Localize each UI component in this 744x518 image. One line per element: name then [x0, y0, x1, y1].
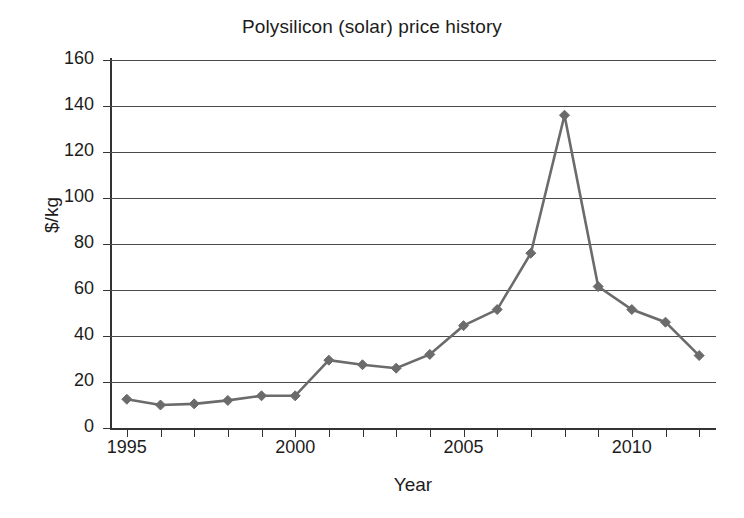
x-axis-tick [161, 428, 162, 437]
x-axis-tick-label: 2005 [424, 437, 504, 458]
data-point-marker [560, 110, 570, 120]
x-axis-tick [127, 428, 128, 437]
data-point-marker [257, 391, 267, 401]
y-axis-tick [103, 106, 110, 107]
data-point-marker [391, 363, 401, 373]
x-axis-tick-label: 2010 [592, 437, 672, 458]
x-axis-tick [363, 428, 364, 437]
y-axis-tick-label: 120 [34, 140, 94, 161]
polysilicon-price-chart: Polysilicon (solar) price history $/kg 1… [0, 0, 744, 518]
x-axis-tick-label: 1995 [87, 437, 167, 458]
x-axis-tick [699, 428, 700, 437]
data-point-marker [189, 399, 199, 409]
x-axis-tick [497, 428, 498, 437]
x-axis-tick [396, 428, 397, 437]
y-axis-tick-label: 60 [34, 278, 94, 299]
y-axis-tick [103, 198, 110, 199]
x-axis-tick [565, 428, 566, 437]
y-axis-title: $/kg [41, 155, 63, 275]
y-axis-tick [103, 428, 110, 429]
x-axis-title: Year [110, 474, 716, 496]
data-point-marker [122, 394, 132, 404]
y-axis-tick [103, 290, 110, 291]
gridline [110, 428, 716, 430]
x-axis-tick [262, 428, 263, 437]
x-axis-tick [531, 428, 532, 437]
y-axis-tick-label: 0 [34, 416, 94, 437]
y-axis-tick [103, 244, 110, 245]
y-axis-tick-label: 40 [34, 324, 94, 345]
y-axis-tick-label: 160 [34, 48, 94, 69]
data-point-marker [156, 400, 166, 410]
y-axis-tick [103, 382, 110, 383]
data-point-marker [223, 395, 233, 405]
x-axis-tick-label: 2000 [255, 437, 335, 458]
plot-area [110, 60, 716, 428]
x-axis-tick [295, 428, 296, 437]
y-axis-tick [103, 336, 110, 337]
x-axis-tick [666, 428, 667, 437]
x-axis-tick [632, 428, 633, 437]
y-axis-tick-label: 20 [34, 370, 94, 391]
data-point-marker [358, 360, 368, 370]
x-axis-tick [329, 428, 330, 437]
x-axis-tick [598, 428, 599, 437]
y-axis-tick [103, 60, 110, 61]
y-axis-tick-label: 80 [34, 232, 94, 253]
data-series-line [110, 60, 716, 428]
x-axis-tick [194, 428, 195, 437]
x-axis-tick [430, 428, 431, 437]
x-axis-tick [228, 428, 229, 437]
chart-title: Polysilicon (solar) price history [0, 16, 744, 38]
y-axis-tick-label: 140 [34, 94, 94, 115]
y-axis-tick-label: 100 [34, 186, 94, 207]
y-axis-tick [103, 152, 110, 153]
x-axis-tick [464, 428, 465, 437]
